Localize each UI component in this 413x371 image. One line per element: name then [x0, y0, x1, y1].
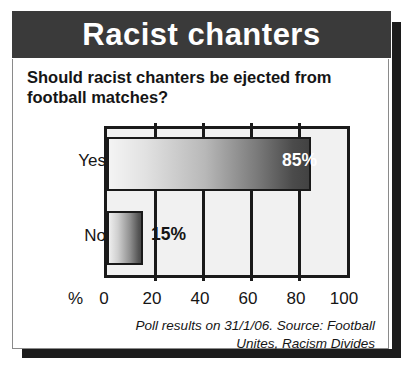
- source-note: Poll results on 31/1/06. Source: Footbal…: [27, 317, 375, 353]
- content-card: Should racist chanters be ejected from f…: [12, 59, 389, 349]
- x-tick-40: 40: [191, 289, 210, 309]
- card-shadow-right: [392, 22, 401, 358]
- source-note-line-2: Unites, Racism Divides: [27, 335, 375, 353]
- x-tick-60: 60: [239, 289, 258, 309]
- poll-question: Should racist chanters be ejected from f…: [27, 67, 375, 107]
- x-tick-0: 0: [99, 289, 108, 309]
- bar-no: [107, 211, 143, 265]
- bar-value-no: 15%: [151, 226, 186, 244]
- bar-chart: Yes No 85% 15%: [13, 125, 390, 285]
- page-title: Racist chanters: [82, 19, 320, 50]
- source-note-line-1: Poll results on 31/1/06. Source: Footbal…: [27, 317, 375, 335]
- category-label-no: No: [84, 226, 106, 246]
- x-tick-80: 80: [287, 289, 306, 309]
- x-tick-20: 20: [143, 289, 162, 309]
- category-label-yes: Yes: [78, 151, 106, 171]
- bar-yes: [107, 137, 311, 191]
- poll-graphic: Racist chanters Should racist chanters b…: [0, 0, 413, 371]
- x-axis: % 0 20 40 60 80 100: [13, 289, 390, 315]
- plot-top-rule: [104, 126, 350, 129]
- bar-value-yes: 85%: [282, 152, 317, 170]
- plot-bottom-rule: [104, 275, 350, 278]
- title-banner: Racist chanters: [12, 11, 391, 58]
- x-axis-unit-label: %: [68, 289, 83, 309]
- x-tick-100: 100: [330, 289, 358, 309]
